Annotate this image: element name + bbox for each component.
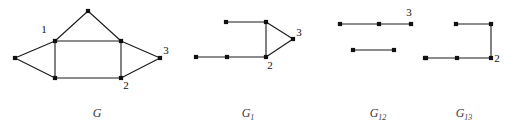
vertex-G1-apex-right — [291, 37, 295, 41]
edge-G-9 — [121, 58, 160, 78]
vertex-G-top-left — [53, 39, 57, 43]
vertex-G13-corner — [489, 56, 493, 60]
caption-base-G12: G — [370, 106, 379, 120]
vertex-label-G1-lower-right: 2 — [267, 59, 273, 71]
edge-G-1 — [88, 11, 121, 41]
caption-base-G: G — [93, 106, 102, 120]
vertex-G12-top-mid — [377, 22, 381, 26]
vertex-G-left — [13, 56, 17, 60]
vertex-G12-top-left — [338, 22, 342, 26]
caption-G1: G1 — [242, 106, 255, 122]
vertex-G-bottom-left — [53, 76, 57, 80]
caption-G12: G12 — [370, 106, 387, 122]
vertex-G12-bottom-right — [392, 48, 396, 52]
vertex-G-apex — [86, 9, 90, 13]
edge-G-0 — [55, 11, 88, 41]
caption-base-G1: G — [242, 106, 251, 120]
edge-G1-3 — [266, 39, 293, 57]
vertex-G13-upper-left — [454, 22, 458, 26]
graph-G1: 32G1 — [194, 20, 302, 122]
vertex-G13-bottom-left — [424, 56, 428, 60]
vertex-label-G-right: 3 — [163, 44, 169, 56]
vertex-G1-lower-mid — [225, 55, 229, 59]
edge-G1-1 — [266, 22, 293, 39]
vertex-G12-top-right — [409, 22, 413, 26]
vertex-G13-upper-right — [489, 22, 493, 26]
caption-G13: G13 — [456, 106, 473, 122]
graph-figure: 123G32G13G122G13 — [0, 0, 514, 129]
caption-subscript-G1: 1 — [250, 113, 254, 122]
vertex-label-G-bottom-right: 2 — [123, 79, 129, 91]
caption-subscript-G12: 12 — [378, 113, 386, 122]
vertex-label-G1-apex-right: 3 — [296, 26, 302, 38]
vertex-label-G12-top-right: 3 — [406, 6, 412, 18]
vertex-label-G-top-left: 1 — [41, 23, 47, 35]
caption-base-G13: G — [456, 106, 465, 120]
vertex-G12-bottom-left — [351, 48, 355, 52]
vertex-G1-upper-left — [224, 20, 228, 24]
caption-subscript-G13: 13 — [464, 113, 472, 122]
caption-G: G — [93, 106, 102, 120]
graph-figure-canvas: 123G32G13G122G13 — [0, 0, 514, 129]
edge-G-3 — [15, 41, 55, 58]
vertex-G1-lower-left — [194, 55, 198, 59]
graph-G: 123G — [13, 9, 169, 120]
vertex-G-right — [158, 56, 162, 60]
vertex-label-G13-corner: 2 — [494, 52, 500, 64]
vertex-G13-bottom-mid — [455, 56, 459, 60]
vertex-G-top-right — [119, 39, 123, 43]
graph-G13: 2G13 — [424, 22, 500, 122]
vertex-G1-upper-right — [264, 20, 268, 24]
edge-G-4 — [15, 58, 55, 78]
edge-G-8 — [121, 41, 160, 58]
graph-G12: 3G12 — [338, 6, 427, 122]
